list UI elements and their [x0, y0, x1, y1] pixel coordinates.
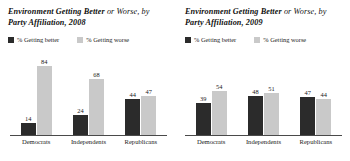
- plot-area-2008: 14 84 24 68: [0, 56, 175, 161]
- chart-title-2008-line1-tail: or Worse, by: [105, 7, 150, 16]
- x-axis-line-2008: [10, 135, 167, 136]
- plot-area-2009: 39 54 48 51: [175, 56, 350, 161]
- bar-independents-better-2009: [248, 96, 263, 135]
- bar-wrap-democrats-worse-2009: 54: [212, 56, 227, 135]
- bar-wrap-republicans-better-2009: 47: [300, 56, 315, 135]
- bar-wrap-republicans-worse-2008: 47: [141, 56, 156, 135]
- двойной-bar-chart-figure: Environment Getting Better or Worse, by …: [0, 0, 350, 161]
- bar-democrats-worse-2008: [37, 66, 52, 135]
- x-axis-labels-2009: Democrats Independents Republicans: [185, 138, 342, 146]
- bar-independents-worse-2009: [264, 93, 279, 135]
- chart-title-2008-line1-strong: Environment Getting Better: [8, 7, 105, 16]
- plot-inner-2008: 14 84 24 68: [10, 56, 167, 136]
- bar-groups-2009: 39 54 48 51: [185, 56, 342, 135]
- x-label-republicans-2009: Republicans: [290, 138, 342, 146]
- chart-title-2009-line2: Party Affiliation, 2009: [185, 18, 263, 27]
- x-axis-labels-2008: Democrats Independents Republicans: [10, 138, 167, 146]
- bar-group-democrats-2008: 14 84: [10, 56, 62, 135]
- legend-item-getting-better-2008: % Getting better: [8, 36, 59, 43]
- bar-value-republicans-worse-2008: 47: [146, 88, 152, 95]
- bar-value-democrats-better-2008: 14: [25, 115, 31, 122]
- legend-label-better: % Getting better: [194, 36, 236, 43]
- bar-wrap-independents-worse-2008: 68: [89, 56, 104, 135]
- bar-value-independents-better-2009: 48: [252, 88, 258, 95]
- bar-democrats-better-2008: [21, 123, 36, 135]
- bar-group-independents-2009: 48 51: [237, 56, 289, 135]
- bar-independents-better-2008: [73, 115, 88, 135]
- bar-democrats-worse-2009: [212, 91, 227, 135]
- legend-label-better: % Getting better: [17, 36, 59, 43]
- chart-title-2008-line2: Party Affiliation, 2008: [8, 18, 86, 27]
- bar-group-independents-2008: 24 68: [62, 56, 114, 135]
- legend-label-worse: % Getting worse: [86, 36, 129, 43]
- legend-label-worse: % Getting worse: [263, 36, 306, 43]
- chart-title-2008: Environment Getting Better or Worse, by …: [8, 0, 158, 28]
- bar-republicans-better-2008: [125, 99, 140, 135]
- legend-swatch-worse-icon: [77, 37, 83, 43]
- x-axis-line-2009: [185, 135, 342, 136]
- bar-wrap-democrats-better-2008: 14: [21, 56, 36, 135]
- bar-group-republicans-2008: 44 47: [115, 56, 167, 135]
- bar-democrats-better-2009: [196, 103, 211, 135]
- bar-groups-2008: 14 84 24 68: [10, 56, 167, 135]
- bar-value-republicans-better-2008: 44: [130, 91, 136, 98]
- legend-item-getting-worse-2008: % Getting worse: [77, 36, 129, 43]
- bar-value-independents-worse-2008: 68: [93, 71, 99, 78]
- bar-wrap-independents-worse-2009: 51: [264, 56, 279, 135]
- bar-wrap-republicans-better-2008: 44: [125, 56, 140, 135]
- legend-swatch-better-icon: [8, 37, 14, 43]
- bar-value-republicans-worse-2009: 44: [321, 91, 327, 98]
- bar-republicans-better-2009: [300, 97, 315, 135]
- bar-value-republicans-better-2009: 47: [305, 89, 311, 96]
- legend-2009: % Getting better % Getting worse: [185, 35, 348, 44]
- legend-item-getting-better-2009: % Getting better: [185, 36, 236, 43]
- bar-republicans-worse-2009: [316, 99, 331, 135]
- bar-wrap-independents-better-2008: 24: [73, 56, 88, 135]
- chart-title-2009-line1-strong: Environment Getting Better: [185, 7, 282, 16]
- bar-value-independents-better-2008: 24: [77, 107, 83, 114]
- legend-item-getting-worse-2009: % Getting worse: [254, 36, 306, 43]
- legend-swatch-better-icon: [185, 37, 191, 43]
- x-label-independents-2008: Independents: [62, 138, 114, 146]
- x-label-democrats-2009: Democrats: [185, 138, 237, 146]
- chart-title-2009: Environment Getting Better or Worse, by …: [185, 0, 335, 28]
- bar-wrap-independents-better-2009: 48: [248, 56, 263, 135]
- chart-panel-2009: Environment Getting Better or Worse, by …: [175, 0, 350, 161]
- x-label-democrats-2008: Democrats: [10, 138, 62, 146]
- chart-title-2009-line1-tail: or Worse, by: [282, 7, 327, 16]
- legend-swatch-worse-icon: [254, 37, 260, 43]
- bar-republicans-worse-2008: [141, 96, 156, 135]
- bar-value-democrats-worse-2008: 84: [41, 58, 47, 65]
- chart-panel-2008: Environment Getting Better or Worse, by …: [0, 0, 175, 161]
- bar-wrap-democrats-worse-2008: 84: [37, 56, 52, 135]
- bar-value-democrats-worse-2009: 54: [216, 83, 222, 90]
- bar-group-republicans-2009: 47 44: [290, 56, 342, 135]
- bar-wrap-democrats-better-2009: 39: [196, 56, 211, 135]
- bar-independents-worse-2008: [89, 79, 104, 135]
- x-label-republicans-2008: Republicans: [115, 138, 167, 146]
- bar-group-democrats-2009: 39 54: [185, 56, 237, 135]
- bar-value-independents-worse-2009: 51: [268, 85, 274, 92]
- plot-inner-2009: 39 54 48 51: [185, 56, 342, 136]
- bar-wrap-republicans-worse-2009: 44: [316, 56, 331, 135]
- legend-2008: % Getting better % Getting worse: [8, 35, 171, 44]
- x-label-independents-2009: Independents: [237, 138, 289, 146]
- bar-value-democrats-better-2009: 39: [200, 95, 206, 102]
